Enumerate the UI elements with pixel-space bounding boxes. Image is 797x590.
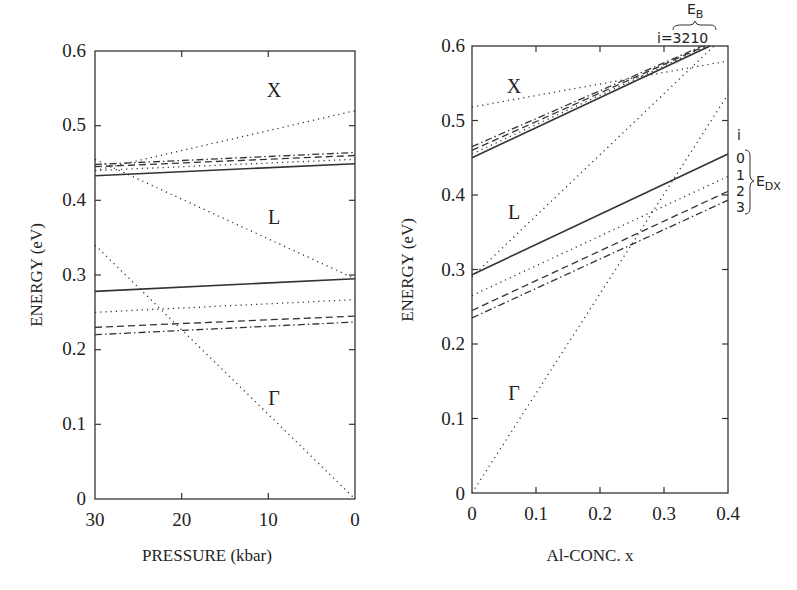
left-xtick-30: 30	[86, 509, 105, 530]
right-plot-frame	[472, 46, 728, 493]
left-line-EDX-0	[95, 279, 355, 292]
right-ytick-0.6: 0.6	[441, 35, 465, 56]
left-ytick-0.5: 0.5	[62, 114, 86, 135]
left-line-L	[95, 159, 355, 278]
right-line-EB-0	[472, 46, 710, 158]
left-ytick-0.1: 0.1	[62, 413, 86, 434]
right-series	[472, 46, 728, 493]
right-xtick-0.2: 0.2	[588, 503, 612, 524]
left-line-EDX-2	[95, 316, 355, 327]
left-line-EB-3	[95, 153, 355, 165]
right-ytick-0: 0	[456, 483, 466, 504]
eb-annotation: EB i=3210	[657, 1, 716, 46]
right-ytick-0.4: 0.4	[441, 184, 465, 205]
right-line-EB-1	[472, 46, 708, 154]
left-y-axis-title: ENERGY (eV)	[27, 223, 46, 327]
i-label: i	[737, 127, 741, 143]
right-label-Gamma: Γ	[508, 382, 520, 404]
dx-index-3: 3	[736, 199, 745, 215]
left-x-ticks	[182, 51, 269, 499]
right-ytick-0.3: 0.3	[441, 259, 465, 280]
right-x-axis-title: Al-CONC. x	[547, 546, 634, 565]
eb-index-label: i=3210	[657, 30, 708, 46]
left-xtick-20: 20	[172, 509, 191, 530]
left-line-X	[95, 111, 355, 171]
right-line-EB-2	[472, 46, 705, 150]
left-x-axis-title: PRESSURE (kbar)	[142, 546, 272, 565]
figure: 0 0.1 0.2 0.3 0.4 0.5 0.6 30 20 10 0 PRE…	[0, 0, 797, 590]
dx-index-0: 0	[736, 150, 745, 166]
left-label-X: X	[267, 79, 282, 101]
right-ytick-0.1: 0.1	[441, 408, 465, 429]
left-ytick-0.3: 0.3	[62, 264, 86, 285]
left-line-Gamma	[95, 245, 355, 499]
dx-index-2: 2	[736, 183, 745, 199]
left-chart: 0 0.1 0.2 0.3 0.4 0.5 0.6 30 20 10 0 PRE…	[27, 40, 360, 565]
right-line-EDX-1	[472, 176, 728, 295]
left-label-L: L	[268, 206, 280, 228]
eb-label: EB	[687, 1, 703, 21]
left-xtick-0: 0	[350, 509, 360, 530]
right-y-axis-title: ENERGY (eV)	[398, 218, 417, 322]
left-ytick-0.6: 0.6	[62, 40, 86, 61]
left-ytick-0.2: 0.2	[62, 338, 86, 359]
left-plot-frame	[95, 51, 355, 499]
right-label-L: L	[508, 201, 520, 223]
right-ytick-0.5: 0.5	[441, 110, 465, 131]
right-chart: 0 0.1 0.2 0.3 0.4 0.5 0.6 0 0.1 0.2 0.3 …	[398, 1, 781, 565]
right-y-ticks	[472, 121, 728, 419]
left-xtick-10: 10	[259, 509, 278, 530]
right-xtick-0.4: 0.4	[716, 503, 740, 524]
left-line-EDX-1	[95, 300, 355, 313]
left-ytick-0: 0	[77, 488, 87, 509]
dx-index-1: 1	[736, 167, 745, 183]
left-ytick-0.4: 0.4	[62, 189, 86, 210]
right-ytick-0.2: 0.2	[441, 333, 465, 354]
right-xtick-0: 0	[467, 503, 477, 524]
right-label-X: X	[507, 75, 522, 97]
edx-annotation: i 0 1 2 3 EDX	[736, 127, 781, 215]
left-line-EDX-3	[95, 322, 355, 335]
right-xtick-0.3: 0.3	[652, 503, 676, 524]
right-xtick-0.1: 0.1	[524, 503, 548, 524]
edx-label: EDX	[756, 173, 781, 193]
left-series	[95, 111, 355, 499]
left-label-Gamma: Γ	[268, 387, 280, 409]
